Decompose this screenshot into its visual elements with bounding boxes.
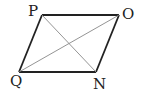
edge-on (96, 15, 119, 72)
edge-qp (19, 15, 42, 72)
diagonal-qo (19, 15, 119, 72)
vertex-label-o: O (122, 5, 134, 23)
vertex-label-n: N (93, 75, 106, 93)
parallelogram-diagram: P O N Q (0, 0, 142, 94)
vertex-label-q: Q (10, 72, 22, 90)
vertex-label-p: P (28, 2, 38, 20)
parallelogram-diagonals (19, 15, 119, 72)
